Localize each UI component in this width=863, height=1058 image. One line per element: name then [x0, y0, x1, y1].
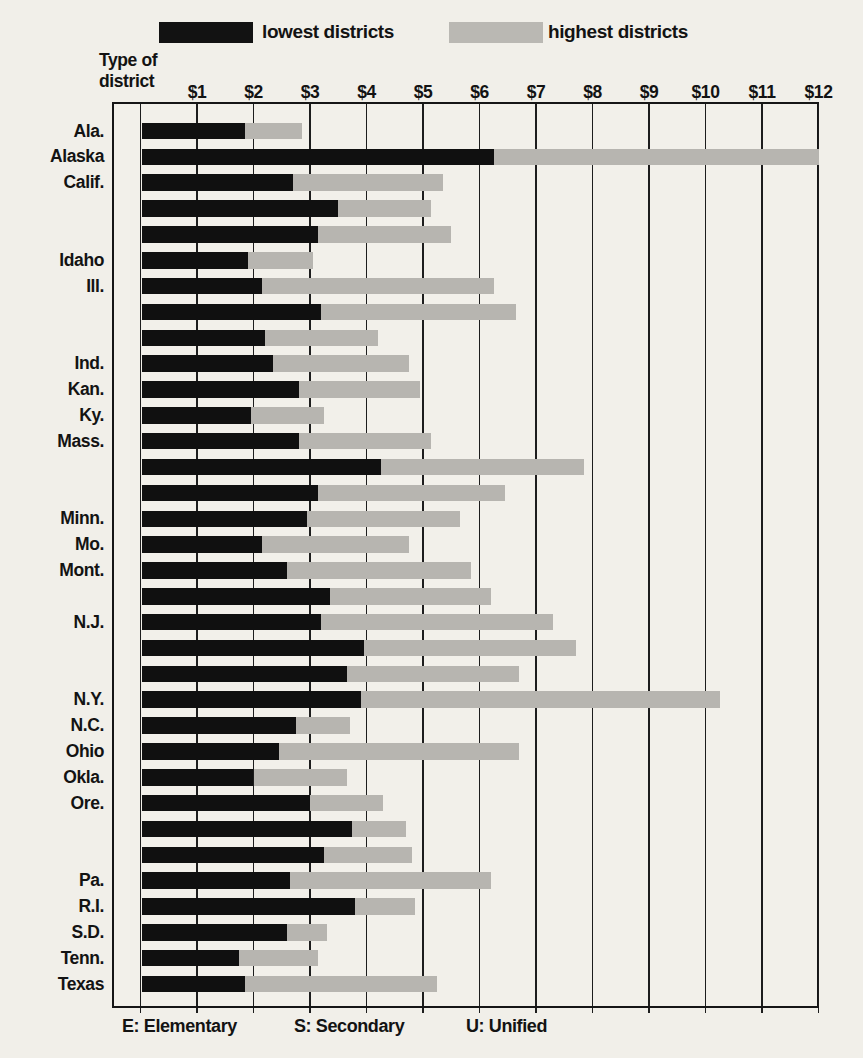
state-label: Kan.: [0, 379, 104, 400]
bar-lowest-district: [142, 795, 310, 812]
state-label: N.Y.: [0, 689, 104, 710]
bar-highest-district: [279, 743, 519, 760]
bar-lowest-district: [142, 381, 299, 398]
bar-highest-district: [307, 511, 460, 528]
bar-lowest-district: [142, 562, 288, 579]
bar-lowest-district: [142, 691, 361, 708]
bar-lowest-district: [142, 459, 381, 476]
bar-highest-district: [248, 252, 313, 269]
bar-lowest-district: [142, 898, 356, 915]
bar-lowest-district: [142, 717, 296, 734]
bar-highest-district: [364, 640, 576, 657]
state-label: Tenn.: [0, 948, 104, 969]
bar-lowest-district: [142, 433, 299, 450]
bar-highest-district: [321, 614, 553, 631]
bar-lowest-district: [142, 588, 330, 605]
bar-lowest-district: [142, 536, 262, 553]
state-label: Idaho: [0, 250, 104, 271]
bar-lowest-district: [142, 226, 319, 243]
bar-lowest-district: [142, 174, 293, 191]
x-tick-label: $11: [748, 82, 775, 103]
bar-lowest-district: [142, 485, 319, 502]
gridline: [648, 104, 650, 1006]
bar-highest-district: [287, 924, 327, 941]
bar-lowest-district: [142, 278, 262, 295]
bar-highest-district: [287, 562, 471, 579]
key-secondary: S: Secondary: [294, 1016, 404, 1037]
bar-lowest-district: [142, 666, 347, 683]
bar-lowest-district: [142, 924, 288, 941]
state-label: Ind.: [0, 353, 104, 374]
axis-tick: [479, 1008, 481, 1013]
x-tick-label: $4: [357, 82, 376, 103]
axis-tick: [535, 1008, 537, 1013]
bar-highest-district: [338, 200, 431, 217]
state-label: Minn.: [0, 508, 104, 529]
axis-tick: [196, 1008, 198, 1013]
x-tick-label: $3: [301, 82, 320, 103]
state-label: N.C.: [0, 715, 104, 736]
gridline: [535, 104, 537, 1006]
bar-lowest-district: [142, 847, 324, 864]
state-label: Texas: [0, 974, 104, 995]
bar-highest-district: [381, 459, 584, 476]
x-tick-label: $9: [640, 82, 659, 103]
x-tick-label: $12: [805, 82, 833, 103]
x-tick-label: $2: [244, 82, 263, 103]
bar-highest-district: [318, 485, 504, 502]
axis-tick: [366, 1008, 368, 1013]
bar-highest-district: [324, 847, 412, 864]
bar-highest-district: [265, 330, 378, 347]
type-of-district-header-line2: district: [99, 71, 157, 92]
bar-lowest-district: [142, 821, 353, 838]
bar-highest-district: [318, 226, 451, 243]
type-of-district-header-line1: Type of: [99, 50, 157, 71]
bar-highest-district: [330, 588, 491, 605]
bar-highest-district: [310, 795, 383, 812]
bar-highest-district: [254, 769, 347, 786]
state-label: Okla.: [0, 767, 104, 788]
bar-lowest-district: [142, 872, 291, 889]
bar-highest-district: [251, 407, 324, 424]
bar-highest-district: [239, 950, 318, 967]
bar-highest-district: [347, 666, 519, 683]
bar-lowest-district: [142, 304, 322, 321]
type-of-district-header: Type of district: [99, 50, 157, 92]
x-tick-label: $6: [470, 82, 489, 103]
bar-highest-district: [273, 355, 409, 372]
axis-tick: [705, 1008, 707, 1013]
bar-highest-district: [262, 536, 409, 553]
state-label: Mont.: [0, 560, 104, 581]
gridline: [479, 104, 481, 1006]
bar-highest-district: [299, 381, 420, 398]
state-label: Mo.: [0, 534, 104, 555]
bar-lowest-district: [142, 355, 274, 372]
axis-tick: [648, 1008, 650, 1013]
key-unified: U: Unified: [466, 1016, 547, 1037]
legend-label-highest-districts: highest districts: [548, 21, 688, 43]
bar-lowest-district: [142, 123, 245, 140]
axis-tick: [253, 1008, 255, 1013]
bar-highest-district: [494, 149, 819, 166]
state-label: Ala.: [0, 121, 104, 142]
bar-lowest-district: [142, 149, 494, 166]
bar-lowest-district: [142, 330, 265, 347]
axis-tick: [818, 1008, 820, 1013]
bar-lowest-district: [142, 950, 240, 967]
x-tick-label: $5: [414, 82, 433, 103]
bar-highest-district: [352, 821, 406, 838]
legend-swatch-highest-districts: [449, 22, 543, 43]
state-label: Ky.: [0, 405, 104, 426]
bar-highest-district: [290, 872, 491, 889]
bar-lowest-district: [142, 976, 245, 993]
bar-highest-district: [321, 304, 516, 321]
x-tick-label: $1: [188, 82, 207, 103]
bar-highest-district: [245, 123, 302, 140]
bar-highest-district: [296, 717, 350, 734]
bar-lowest-district: [142, 407, 251, 424]
x-tick-label: $7: [527, 82, 546, 103]
bar-highest-district: [262, 278, 494, 295]
key-elementary: E: Elementary: [122, 1016, 237, 1037]
state-label: Ill.: [0, 276, 104, 297]
chart-page: lowest districts highest districts Type …: [0, 0, 863, 1058]
